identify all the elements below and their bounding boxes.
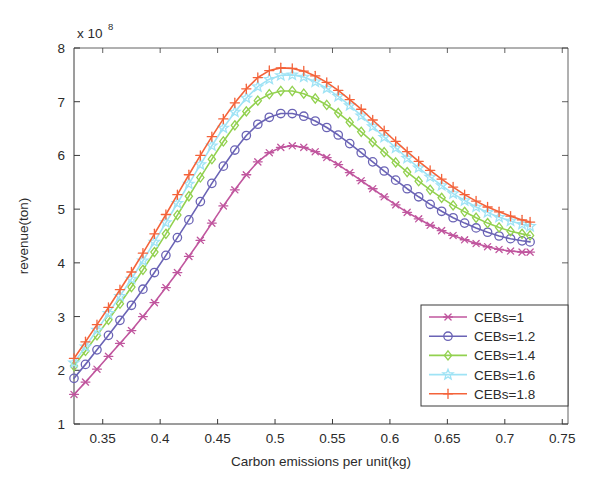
x-tick-label: 0.35 — [90, 431, 116, 446]
x-tick-label: 0.45 — [204, 431, 230, 446]
y-axis-title: revenue(ton) — [16, 198, 31, 275]
legend-label: CEBs=1.2 — [474, 329, 535, 344]
line-chart: 0.350.40.450.50.550.60.650.70.7512345678… — [0, 0, 606, 492]
y-tick-label: 6 — [57, 148, 65, 163]
x-tick-label: 0.75 — [549, 431, 575, 446]
y-tick-label: 4 — [57, 256, 65, 271]
x-tick-label: 0.55 — [319, 431, 345, 446]
x-tick-label: 0.7 — [495, 431, 514, 446]
legend: CEBs=1CEBs=1.2CEBs=1.4CEBs=1.6CEBs=1.8 — [421, 305, 568, 406]
y-tick-label: 7 — [57, 95, 65, 110]
y-tick-label: 2 — [57, 363, 65, 378]
y-tick-label: 3 — [57, 310, 65, 325]
y-tick-label: 8 — [57, 41, 65, 56]
legend-label: CEBs=1.8 — [474, 387, 535, 402]
y-axis-exponent-power: 8 — [108, 21, 113, 32]
legend-label: CEBs=1.4 — [474, 348, 536, 363]
y-axis-exponent: x 108 — [77, 21, 113, 41]
x-axis-title: Carbon emissions per unit(kg) — [231, 454, 411, 469]
y-axis-exponent-base: x 10 — [77, 26, 103, 41]
y-tick-label: 5 — [57, 202, 65, 217]
x-tick-label: 0.4 — [151, 431, 170, 446]
x-tick-label: 0.5 — [266, 431, 285, 446]
x-tick-label: 0.6 — [381, 431, 400, 446]
figure-canvas: 0.350.40.450.50.550.60.650.70.7512345678… — [0, 0, 606, 492]
x-tick-label: 0.65 — [434, 431, 460, 446]
legend-label: CEBs=1 — [474, 310, 524, 325]
legend-label: CEBs=1.6 — [474, 368, 535, 383]
y-tick-label: 1 — [57, 417, 65, 432]
